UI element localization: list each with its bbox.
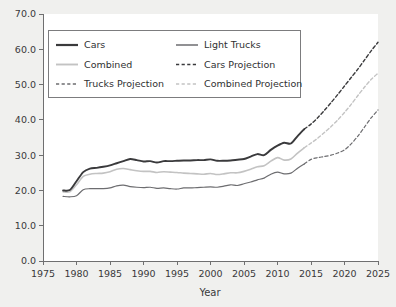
x-tick-label: 1975 (31, 268, 55, 279)
x-tick-label: 1995 (165, 268, 189, 279)
line-chart: 0.010.020.030.040.050.060.070.0 19751980… (0, 0, 396, 307)
legend-label: Combined (84, 59, 132, 70)
legend-label: Cars Projection (204, 59, 275, 70)
y-tick-label: 50.0 (15, 79, 36, 90)
y-tick-label: 60.0 (15, 44, 36, 55)
y-tick-label: 70.0 (15, 8, 36, 19)
chart-container: 0.010.020.030.040.050.060.070.0 19751980… (0, 0, 396, 307)
y-tick-label: 30.0 (15, 150, 36, 161)
x-tick-label: 2025 (366, 268, 390, 279)
x-tick-label: 1990 (131, 268, 155, 279)
chart-legend[interactable]: CarsLight TrucksCombinedCars ProjectionT… (49, 31, 303, 98)
legend-label: Trucks Projection (83, 78, 164, 89)
y-tick-label: 0.0 (21, 255, 36, 266)
x-tick-label: 1980 (64, 268, 88, 279)
x-tick-label: 2010 (265, 268, 289, 279)
legend-label: Light Trucks (204, 39, 261, 50)
x-tick-label: 1985 (98, 268, 122, 279)
y-tick-label: 10.0 (15, 220, 36, 231)
y-tick-label: 40.0 (15, 114, 36, 125)
legend-label: Cars (84, 39, 105, 50)
x-tick-label: 2020 (332, 268, 356, 279)
y-tick-label: 20.0 (15, 185, 36, 196)
x-tick-label: 2015 (299, 268, 323, 279)
x-tick-label: 2000 (198, 268, 222, 279)
legend-label: Combined Projection (204, 78, 302, 89)
x-axis-title: Year (198, 287, 221, 298)
x-tick-label: 2005 (232, 268, 256, 279)
